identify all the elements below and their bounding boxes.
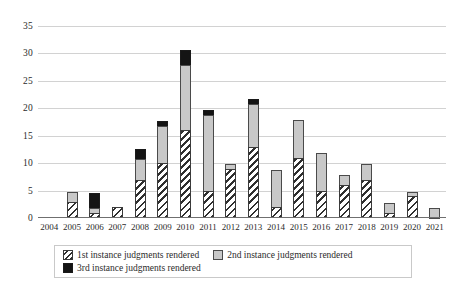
bar-segment-series-2: [361, 164, 372, 180]
legend-item-1st-instance: 1st instance judgments rendered: [63, 250, 199, 260]
bar-segment-series-3: [180, 50, 191, 66]
x-axis-line: [38, 217, 446, 218]
x-tick-label: 2014: [267, 222, 285, 232]
bar-stack: [316, 153, 327, 218]
x-tick-label: 2010: [176, 222, 194, 232]
x-tick-label: 2021: [426, 222, 444, 232]
bar-stack: [248, 99, 259, 218]
legend-item-3rd-instance: 3rd instance judgments rendered: [63, 263, 201, 273]
bar-segment-series-1: [407, 196, 418, 218]
x-tick-label: 2009: [154, 222, 172, 232]
bar-segment-series-1: [157, 163, 168, 218]
bar-segment-series-2: [316, 153, 327, 191]
bar-segment-series-1: [316, 191, 327, 218]
bar-stack: [407, 192, 418, 218]
bar-segment-series-2: [293, 120, 304, 158]
x-tick-label: 2019: [380, 222, 398, 232]
bar-segment-series-3: [89, 193, 100, 209]
black-swatch-icon: [63, 263, 73, 273]
bar-stack: [271, 170, 282, 218]
bar-segment-series-1: [361, 180, 372, 218]
plot-area: 05101520253035 2004200520062007200820092…: [38, 26, 446, 218]
x-tick-label: 2017: [335, 222, 353, 232]
bar-segment-series-1: [67, 202, 78, 218]
bar-segment-series-2: [248, 104, 259, 148]
legend-row-top: 1st instance judgments rendered 2nd inst…: [63, 250, 403, 260]
bar-stack: [339, 175, 350, 218]
bar-segment-series-1: [135, 180, 146, 218]
chart-legend: 1st instance judgments rendered 2nd inst…: [54, 245, 412, 278]
bar-segment-series-2: [157, 126, 168, 164]
gray-swatch-icon: [213, 250, 223, 260]
legend-item-2nd-instance: 2nd instance judgments rendered: [213, 250, 352, 260]
bar-segment-series-1: [248, 147, 259, 218]
bars-layer: [38, 26, 446, 218]
bar-segment-series-1: [339, 185, 350, 218]
x-tick-label: 2007: [108, 222, 126, 232]
x-tick-label: 2013: [244, 222, 262, 232]
bar-segment-series-1: [180, 130, 191, 218]
x-tick-label: 2016: [312, 222, 330, 232]
x-tick-label: 2020: [403, 222, 421, 232]
bar-segment-series-2: [203, 115, 214, 192]
y-tick-label: 15: [23, 131, 33, 141]
bar-segment-series-2: [271, 170, 282, 208]
bar-stack: [89, 193, 100, 218]
stacked-bar-chart: 05101520253035 2004200520062007200820092…: [0, 0, 461, 284]
x-tick-label: 2011: [199, 222, 217, 232]
x-tick-label: 2006: [86, 222, 104, 232]
x-tick-label: 2018: [358, 222, 376, 232]
x-tick-label: 2012: [222, 222, 240, 232]
legend-row-bottom: 3rd instance judgments rendered: [63, 263, 403, 273]
y-tick-label: 20: [23, 103, 33, 113]
x-tick-label: 2008: [131, 222, 149, 232]
bar-segment-series-1: [203, 191, 214, 218]
x-tick-label: 2004: [40, 222, 58, 232]
x-tick-label: 2015: [290, 222, 308, 232]
bar-segment-series-1: [225, 169, 236, 218]
bar-stack: [67, 192, 78, 218]
y-tick-label: 10: [23, 158, 33, 168]
x-tick-label: 2005: [63, 222, 81, 232]
bar-stack: [203, 110, 214, 218]
hatch-swatch-icon: [63, 250, 73, 260]
bar-segment-series-1: [293, 158, 304, 218]
bar-segment-series-2: [135, 159, 146, 181]
y-tick-label: 0: [28, 213, 33, 223]
bar-stack: [361, 164, 372, 218]
bar-stack: [180, 50, 191, 218]
y-tick-label: 35: [23, 21, 33, 31]
bar-stack: [135, 149, 146, 218]
bar-stack: [384, 203, 395, 218]
bar-stack: [157, 121, 168, 218]
y-tick-label: 25: [23, 76, 33, 86]
y-tick-label: 5: [28, 186, 33, 196]
bar-stack: [225, 164, 236, 218]
y-tick-label: 30: [23, 48, 33, 58]
bar-stack: [293, 120, 304, 218]
legend-label-2nd-instance: 2nd instance judgments rendered: [227, 250, 352, 260]
bar-segment-series-2: [180, 65, 191, 131]
legend-label-3rd-instance: 3rd instance judgments rendered: [77, 263, 201, 273]
legend-label-1st-instance: 1st instance judgments rendered: [77, 250, 199, 260]
